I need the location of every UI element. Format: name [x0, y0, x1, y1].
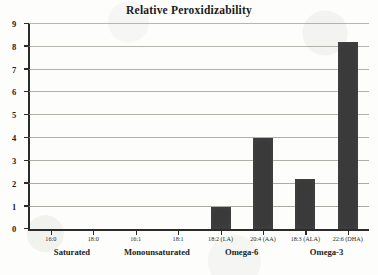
gridline [28, 137, 369, 138]
x-axis-label: 16:0 [45, 235, 56, 242]
y-axis-line [28, 24, 30, 231]
gridline [28, 69, 369, 70]
gridline [28, 23, 369, 24]
y-axis-label: 0 [12, 224, 16, 234]
y-axis-tick [24, 228, 29, 229]
x-axis-label: 18:3 (ALA) [291, 235, 320, 242]
y-axis-tick [24, 114, 29, 115]
y-axis-tick [24, 182, 29, 183]
x-axis-label: 22:6 (DHA) [333, 235, 363, 242]
gridline [28, 206, 369, 207]
y-axis-label: 3 [12, 156, 16, 166]
y-axis-label: 7 [12, 65, 16, 75]
plot-area: 0123456789 16:018:016:118:118:2 (LA)20:4… [28, 24, 369, 231]
x-axis-line [28, 229, 369, 231]
y-axis-label: 5 [12, 110, 16, 120]
y-axis-tick [24, 205, 29, 206]
group-label: Monounsaturated [124, 247, 190, 257]
y-axis-tick [24, 137, 29, 138]
y-axis-label: 9 [12, 19, 16, 29]
y-axis-label: 1 [12, 202, 16, 212]
y-axis-tick [24, 45, 29, 46]
x-axis-label: 18:2 (LA) [208, 235, 233, 242]
y-axis-label: 4 [12, 133, 16, 143]
group-label: Saturated [54, 247, 90, 257]
gridline [28, 160, 369, 161]
bar [295, 179, 315, 229]
bar [253, 138, 273, 229]
y-axis-tick [24, 68, 29, 69]
gridline [28, 183, 369, 184]
y-axis-label: 8 [12, 42, 16, 52]
gridline [28, 114, 369, 115]
y-axis-tick [24, 23, 29, 24]
chart-title: Relative Peroxidizability [0, 4, 378, 16]
chart-page: Relative Peroxidizability 0123456789 16:… [0, 0, 378, 275]
y-axis-label: 2 [12, 179, 16, 189]
y-axis-label: 6 [12, 87, 16, 97]
x-axis-label: 16:1 [130, 235, 141, 242]
group-label: Omega-3 [310, 247, 343, 257]
bar [211, 207, 231, 230]
gridline [28, 91, 369, 92]
bar [338, 42, 358, 229]
group-label: Omega-6 [225, 247, 258, 257]
gridline [28, 46, 369, 47]
x-axis-label: 18:0 [88, 235, 99, 242]
y-axis-tick [24, 91, 29, 92]
x-axis-label: 20:4 (AA) [250, 235, 276, 242]
y-axis-tick [24, 160, 29, 161]
x-axis-label: 18:1 [173, 235, 184, 242]
